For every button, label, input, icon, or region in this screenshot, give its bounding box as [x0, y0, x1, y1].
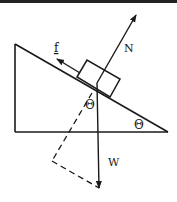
- friction-label: f: [54, 41, 60, 55]
- inclined-plane: [15, 44, 168, 132]
- weight-arrow: [97, 83, 99, 188]
- theta-angle-incline-label: Θ: [134, 118, 144, 132]
- normal-force-label: N: [124, 42, 134, 55]
- free-body-diagram: N f W Θ Θ: [0, 0, 177, 202]
- top-border: [0, 0, 177, 3]
- dashed-parallel-component: [52, 161, 99, 188]
- weight-label: W: [108, 156, 120, 169]
- incline-hypotenuse: [15, 44, 168, 132]
- theta-angle-block-label: Θ: [85, 98, 95, 112]
